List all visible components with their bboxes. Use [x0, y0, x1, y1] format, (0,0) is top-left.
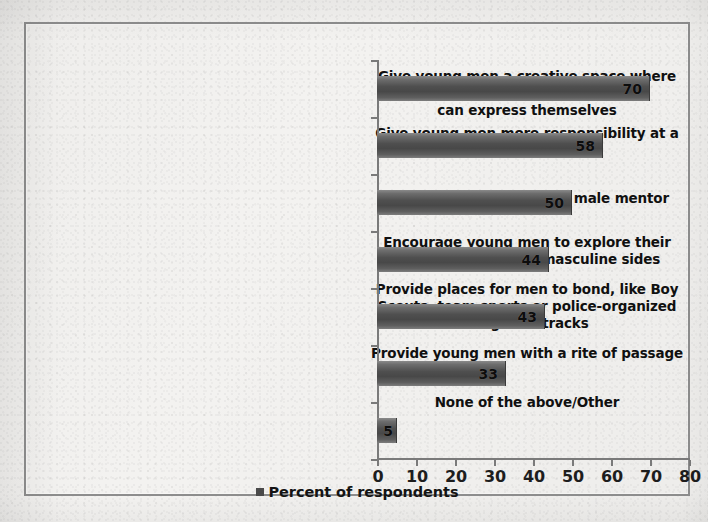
- x-axis-ticks-layer: 0 10 20 30 40 50 60 70 80: [26, 24, 688, 494]
- x-axis-tick: [455, 460, 457, 466]
- legend-label: Percent of respondents: [269, 484, 459, 500]
- x-axis-tick: [416, 460, 418, 466]
- x-axis-tick: [689, 460, 691, 466]
- x-axis-tick: [572, 460, 574, 466]
- x-axis-tick: [611, 460, 613, 466]
- legend-swatch-icon: [256, 488, 264, 496]
- x-axis-tick: [377, 460, 379, 466]
- x-axis-tick: [650, 460, 652, 466]
- chart-frame: Give young men a creative space where th…: [24, 22, 690, 496]
- x-axis-tick: [533, 460, 535, 466]
- chart-legend: Percent of respondents: [26, 484, 688, 500]
- x-axis-tick: [494, 460, 496, 466]
